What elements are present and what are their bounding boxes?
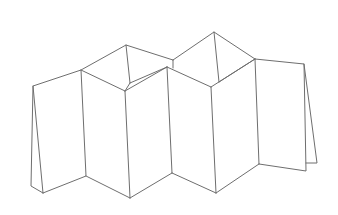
back-face-2: [173, 32, 255, 87]
figure-canvas: [0, 0, 338, 215]
panel-ab-bottom: [86, 176, 130, 198]
fold-c: [167, 67, 172, 173]
panel-de-bottom: [216, 164, 259, 193]
right-panel-outline: [255, 59, 306, 171]
fold-d: [211, 87, 216, 193]
fold-e: [255, 59, 259, 164]
left-panel-outline: [33, 70, 86, 193]
panel-cd-bottom: [172, 173, 216, 193]
fold-b: [125, 91, 130, 198]
accordion-fold-drawing: [0, 0, 338, 215]
panel-bc-bottom: [130, 173, 172, 198]
